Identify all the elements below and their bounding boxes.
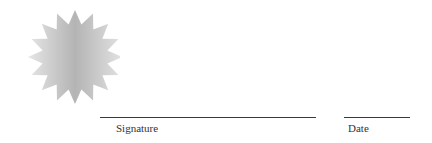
date-label: Date — [348, 122, 369, 134]
date-line[interactable] — [344, 117, 410, 118]
signature-line[interactable] — [100, 117, 316, 118]
signature-label: Signature — [116, 122, 158, 134]
starburst-seal-icon — [20, 8, 120, 108]
